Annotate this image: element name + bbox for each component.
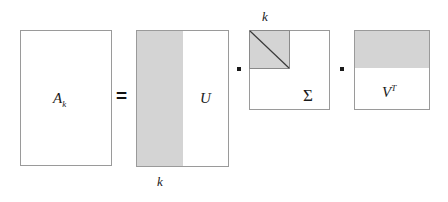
matrix-sigma-label: Σ [303,87,313,104]
multiply-dot-2 [340,67,344,71]
multiply-dot-1 [237,67,241,71]
matrix-v-transpose-label-base: V [382,84,391,100]
matrix-u-rank-label-k: k [157,175,163,188]
svd-diagram: Ak = U k k Σ VT [0,0,448,202]
matrix-sigma-rank-label-k: k [262,10,268,23]
matrix-u-label: U [200,91,211,106]
matrix-a-k-label-subscript: k [62,99,66,109]
matrix-v-transpose-label-superscript: T [391,83,396,93]
matrix-a-k-label: Ak [53,91,66,109]
matrix-sigma-rank-block [249,30,290,69]
equals-operator: = [116,86,127,105]
matrix-a-k-label-base: A [53,90,62,106]
matrix-v-transpose-label: VT [382,84,396,100]
matrix-u-outline [136,30,229,167]
